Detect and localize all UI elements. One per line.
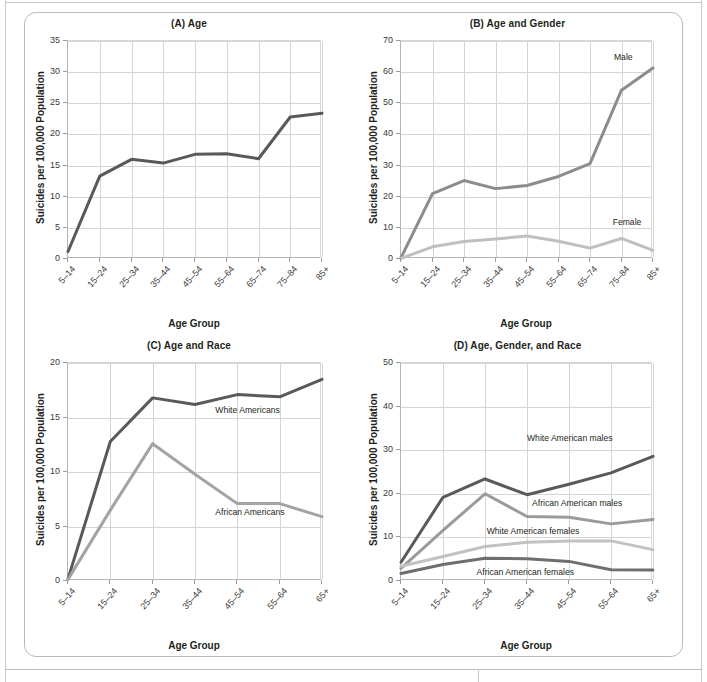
panel-d-y-tick-mark bbox=[396, 536, 400, 537]
panel-b-plot-area: MaleFemale bbox=[400, 40, 652, 258]
panel-d-series-annotation: White American males bbox=[527, 433, 613, 443]
panel-d-series-annotation: African American males bbox=[532, 498, 622, 508]
panel-c: (C) Age and RaceSuicides per 100,000 Pop… bbox=[24, 340, 354, 656]
panel-c-x-tick-mark bbox=[321, 580, 322, 584]
panel-a-y-tick-mark bbox=[63, 227, 67, 228]
panel-d-x-tick-mark bbox=[652, 580, 653, 584]
panel-d-x-tick-label: 5–14 bbox=[363, 586, 411, 637]
panel-a-y-tick-label: 10 bbox=[50, 191, 60, 201]
panel-d-x-axis-label: Age Group bbox=[400, 640, 652, 651]
panel-b-y-tick-label: 70 bbox=[383, 35, 393, 45]
panel-d-y-tick-label: 0 bbox=[388, 575, 393, 585]
panel-a-gridline-v bbox=[322, 41, 323, 257]
panel-c-x-tick-label: 25–34 bbox=[115, 586, 163, 637]
panel-b-x-tick-mark bbox=[652, 258, 653, 262]
panel-c-y-tick-mark bbox=[63, 362, 67, 363]
panel-b-y-tick-mark bbox=[396, 40, 400, 41]
panel-a-y-tick-label: 30 bbox=[50, 66, 60, 76]
panel-d-series-line bbox=[401, 541, 653, 566]
panel-c-x-tick-label: 5–14 bbox=[30, 586, 78, 637]
panel-c-plot-area: White AmericansAfrican Americans bbox=[67, 362, 321, 580]
panel-a-x-tick-mark bbox=[226, 258, 227, 262]
panel-d: (D) Age, Gender, and RaceSuicides per 10… bbox=[354, 340, 681, 656]
panel-d-y-tick-label: 40 bbox=[383, 401, 393, 411]
panel-c-x-tick-label: 15–24 bbox=[72, 586, 120, 637]
panel-d-y-tick-label: 20 bbox=[383, 488, 393, 498]
panel-b-series-annotation: Male bbox=[614, 52, 633, 62]
panel-b-y-axis-label: Suicides per 100,000 Population bbox=[368, 39, 379, 257]
panel-d-y-axis-label: Suicides per 100,000 Population bbox=[368, 361, 379, 579]
panel-c-y-tick-mark bbox=[63, 417, 67, 418]
panel-c-gridline-v bbox=[322, 363, 323, 579]
panel-c-x-tick-mark bbox=[67, 580, 68, 584]
panel-d-x-tick-mark bbox=[610, 580, 611, 584]
panel-b-y-tick-label: 0 bbox=[388, 253, 393, 263]
panel-d-x-tick-label: 55–64 bbox=[573, 586, 621, 637]
panel-c-x-tick-mark bbox=[279, 580, 280, 584]
panel-d-x-tick-label: 35–44 bbox=[489, 586, 537, 637]
panel-b-x-tick-mark bbox=[589, 258, 590, 262]
panel-a-title: (A) Age bbox=[24, 18, 354, 29]
panel-b-y-tick-label: 10 bbox=[383, 222, 393, 232]
panel-c-x-axis-label: Age Group bbox=[67, 640, 321, 651]
panel-a-x-tick-mark bbox=[289, 258, 290, 262]
panel-d-plot-area: White American malesAfrican American mal… bbox=[400, 362, 652, 580]
panel-d-y-tick-mark bbox=[396, 362, 400, 363]
panel-b-y-tick-label: 40 bbox=[383, 128, 393, 138]
panel-a-y-tick-label: 25 bbox=[50, 97, 60, 107]
panel-c-x-tick-mark bbox=[194, 580, 195, 584]
panel-d-y-tick-label: 50 bbox=[383, 357, 393, 367]
panel-c-y-axis-label: Suicides per 100,000 Population bbox=[35, 361, 46, 579]
panel-a-y-tick-mark bbox=[63, 102, 67, 103]
panel-a-x-axis-label: Age Group bbox=[67, 318, 321, 329]
panel-a-y-tick-label: 5 bbox=[55, 222, 60, 232]
page-frame-left-rule bbox=[5, 0, 6, 682]
panel-d-x-tick-mark bbox=[484, 580, 485, 584]
panel-a-y-tick-mark bbox=[63, 40, 67, 41]
panel-b-y-tick-mark bbox=[396, 196, 400, 197]
panel-c-x-tick-label: 65+ bbox=[284, 586, 332, 637]
panel-a-x-tick-mark bbox=[194, 258, 195, 262]
panel-b-series-annotation: Female bbox=[613, 217, 642, 227]
panel-b-y-tick-mark bbox=[396, 227, 400, 228]
panel-c-x-tick-label: 35–44 bbox=[157, 586, 205, 637]
panel-c-x-tick-label: 55–64 bbox=[242, 586, 290, 637]
panel-b-y-tick-label: 20 bbox=[383, 191, 393, 201]
panel-c-series-annotation: African Americans bbox=[215, 507, 284, 517]
panel-d-title: (D) Age, Gender, and Race bbox=[354, 340, 681, 351]
panel-d-series-annotation: White American females bbox=[487, 526, 580, 536]
panel-c-x-tick-mark bbox=[109, 580, 110, 584]
panel-d-x-tick-label: 65+ bbox=[615, 586, 663, 637]
panel-a-x-tick-mark bbox=[258, 258, 259, 262]
page-frame-bottom-rule bbox=[5, 669, 702, 670]
panel-c-y-tick-label: 20 bbox=[50, 357, 60, 367]
panel-b-y-tick-label: 30 bbox=[383, 160, 393, 170]
panel-a-y-tick-label: 35 bbox=[50, 35, 60, 45]
panel-b-x-tick-mark bbox=[495, 258, 496, 262]
panel-a-y-tick-mark bbox=[63, 133, 67, 134]
panel-c-y-tick-label: 15 bbox=[50, 412, 60, 422]
panel-c-y-tick-mark bbox=[63, 526, 67, 527]
panel-b-x-tick-mark bbox=[432, 258, 433, 262]
panel-c-x-tick-mark bbox=[236, 580, 237, 584]
panel-b-y-tick-mark bbox=[396, 133, 400, 134]
panel-a-x-tick-mark bbox=[67, 258, 68, 262]
panel-b-title: (B) Age and Gender bbox=[354, 18, 681, 29]
panel-b-y-tick-mark bbox=[396, 102, 400, 103]
panel-a-x-tick-mark bbox=[162, 258, 163, 262]
panel-b-gridline-v bbox=[653, 41, 654, 257]
panel-a-y-tick-mark bbox=[63, 196, 67, 197]
panel-d-x-tick-mark bbox=[526, 580, 527, 584]
panel-b-series-line bbox=[401, 236, 653, 258]
panel-b-x-tick-mark bbox=[526, 258, 527, 262]
panel-d-y-tick-mark bbox=[396, 493, 400, 494]
panel-a-series-line bbox=[68, 113, 322, 251]
panel-d-y-tick-mark bbox=[396, 406, 400, 407]
panel-a-y-tick-mark bbox=[63, 165, 67, 166]
panel-c-y-tick-mark bbox=[63, 471, 67, 472]
figure-page: (A) AgeSuicides per 100,000 Population05… bbox=[0, 0, 707, 682]
panel-b: (B) Age and GenderSuicides per 100,000 P… bbox=[354, 18, 681, 334]
panel-a-y-tick-label: 20 bbox=[50, 128, 60, 138]
panel-c-series-line bbox=[68, 379, 322, 578]
panel-d-x-tick-label: 25–34 bbox=[447, 586, 495, 637]
